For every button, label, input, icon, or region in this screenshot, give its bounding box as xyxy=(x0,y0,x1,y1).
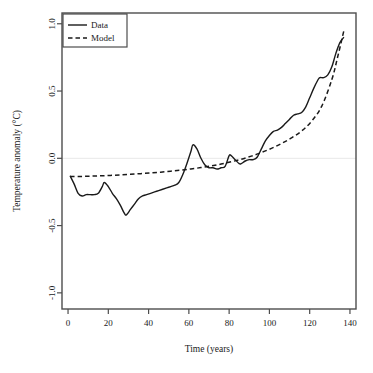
legend-label-data: Data xyxy=(91,20,108,30)
x-axis-label: Time (years) xyxy=(185,344,233,355)
y-tick-label: 0.5 xyxy=(47,85,57,97)
y-tick-label: -1.0 xyxy=(47,285,57,300)
y-tick-label: 0.0 xyxy=(47,152,57,164)
y-tick-label: -0.5 xyxy=(47,218,57,233)
x-tick-label: 140 xyxy=(343,318,357,328)
y-tick-label: 1.0 xyxy=(47,18,57,30)
x-tick-label: 0 xyxy=(66,318,71,328)
chart-legend: DataModel xyxy=(63,14,127,47)
chart-figure: 020406080100120140 -1.0-0.50.00.51.0 Dat… xyxy=(0,0,373,373)
x-tick-label: 20 xyxy=(104,318,114,328)
x-tick-label: 60 xyxy=(184,318,194,328)
legend-label-model: Model xyxy=(91,33,115,43)
y-axis-label: Temperature anomaly (°C) xyxy=(12,110,23,212)
x-tick-label: 120 xyxy=(303,318,317,328)
x-tick-label: 40 xyxy=(144,318,154,328)
x-tick-label: 80 xyxy=(225,318,235,328)
temperature-anomaly-chart: 020406080100120140 -1.0-0.50.00.51.0 Dat… xyxy=(0,0,373,373)
x-tick-label: 100 xyxy=(263,318,277,328)
